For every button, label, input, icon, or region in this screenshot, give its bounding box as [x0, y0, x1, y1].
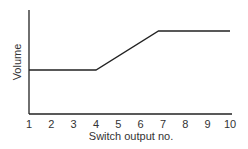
x-axis-label: Switch output no.: [89, 130, 173, 142]
axes: [29, 10, 232, 114]
x-tick-labels: 12345678910: [26, 118, 236, 130]
volume-chart: 12345678910 Switch output no. Volume: [0, 0, 248, 149]
x-tick-label: 6: [138, 118, 144, 130]
x-tick-label: 10: [224, 118, 236, 130]
x-tick-label: 8: [182, 118, 188, 130]
x-tick-label: 3: [71, 118, 77, 130]
x-tick-label: 9: [205, 118, 211, 130]
x-tick-label: 7: [160, 118, 166, 130]
volume-line: [29, 31, 230, 70]
x-tick-label: 2: [48, 118, 54, 130]
x-tick-label: 1: [26, 118, 32, 130]
y-axis-label: Volume: [11, 44, 23, 81]
x-tick-label: 4: [93, 118, 99, 130]
x-tick-label: 5: [115, 118, 121, 130]
